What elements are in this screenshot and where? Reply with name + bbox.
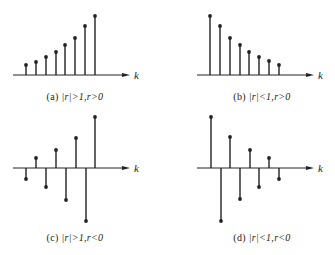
caption-condition: |r|>1,r>0	[61, 91, 103, 102]
stem-marker	[24, 63, 28, 67]
k-axis-label: k	[318, 162, 323, 174]
stem-marker	[277, 63, 281, 67]
caption-condition: |r|<1,r<0	[249, 232, 291, 243]
stem-marker	[73, 36, 77, 40]
stem-marker	[34, 60, 38, 64]
stem-marker	[54, 50, 58, 54]
stem-marker	[84, 219, 88, 223]
k-axis-label: k	[134, 162, 139, 174]
stem-marker	[44, 185, 48, 189]
axis-arrow-icon	[122, 73, 130, 77]
stem-marker	[219, 219, 223, 223]
stem-marker	[267, 156, 271, 160]
stem-marker	[267, 59, 271, 63]
k-axis-label: k	[134, 69, 139, 81]
stem-marker	[44, 55, 48, 59]
axis-arrow-icon	[306, 73, 314, 77]
stem-marker	[238, 43, 242, 47]
stem-marker	[277, 177, 281, 181]
stem-marker	[83, 24, 87, 28]
panel-caption: (a) |r|>1,r>0	[47, 91, 104, 102]
stem-marker	[257, 55, 261, 59]
stem-plots	[0, 0, 335, 255]
stem-marker	[93, 115, 97, 119]
stem-marker	[63, 43, 67, 47]
panel-d	[197, 115, 314, 223]
k-axis-label: k	[318, 69, 323, 81]
stem-marker	[218, 24, 222, 28]
panel-caption: (b) |r|<1,r>0	[233, 91, 290, 102]
caption-label: (b)	[233, 91, 248, 102]
caption-label: (d)	[233, 232, 248, 243]
stem-marker	[238, 197, 242, 201]
stem-marker	[248, 148, 252, 152]
panel-caption: (d) |r|<1,r<0	[233, 232, 290, 243]
stem-marker	[24, 177, 28, 181]
stem-marker	[209, 115, 213, 119]
panel-a	[13, 14, 130, 77]
stem-marker	[34, 156, 38, 160]
caption-condition: |r|>1,r<0	[61, 232, 103, 243]
stem-marker	[257, 185, 261, 189]
stem-marker	[74, 136, 78, 140]
stem-marker	[64, 198, 68, 202]
stem-marker	[93, 14, 97, 18]
panel-b	[197, 14, 314, 77]
stem-marker	[228, 36, 232, 40]
panel-c	[13, 115, 130, 223]
caption-label: (c)	[47, 232, 62, 243]
caption-label: (a)	[47, 91, 62, 102]
panel-caption: (c) |r|>1,r<0	[47, 232, 104, 243]
stem-marker	[54, 148, 58, 152]
stem-marker	[247, 50, 251, 54]
caption-condition: |r|<1,r>0	[249, 91, 291, 102]
axis-arrow-icon	[122, 166, 130, 170]
stem-marker	[228, 135, 232, 139]
axis-arrow-icon	[306, 166, 314, 170]
stem-marker	[208, 14, 212, 18]
